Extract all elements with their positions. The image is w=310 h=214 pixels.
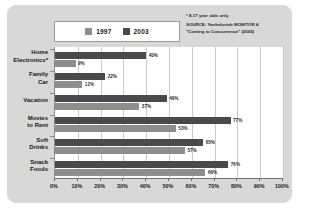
bar-group: 76%66%: [55, 156, 283, 178]
footnote-text: * 8-17 year olds only: [186, 13, 298, 20]
bar-value-label: 9%: [78, 61, 85, 66]
x-tick-label: 80%: [231, 183, 242, 189]
x-tick: [168, 178, 169, 181]
category-label: Moviesto Rent: [0, 115, 48, 130]
bar-row: 22%: [55, 73, 117, 80]
bar-value-label: 66%: [208, 170, 217, 175]
x-tick-label: 100%: [275, 183, 289, 189]
bar-row: 76%: [55, 161, 240, 168]
bar-row: 37%: [55, 103, 151, 110]
chart-figure: 1997 2003 * 8-17 year olds only SOURCE: …: [0, 0, 310, 214]
bar-row: 9%: [55, 60, 85, 67]
bar-1997: [55, 81, 82, 88]
bar-1997: [55, 169, 205, 176]
bar-1997: [55, 103, 139, 110]
plot-area: 40%9%22%12%49%37%77%53%65%57%76%66%: [54, 47, 283, 178]
gridline: [283, 47, 284, 178]
x-tick-label: 90%: [254, 183, 265, 189]
bar-value-label: 77%: [233, 118, 242, 123]
bar-2003: [55, 95, 167, 102]
bar-value-label: 12%: [85, 82, 94, 87]
bar-group: 40%9%: [55, 47, 283, 69]
bar-value-label: 65%: [206, 140, 215, 145]
legend-label-1997: 1997: [96, 28, 111, 35]
x-tick-label: 70%: [208, 183, 219, 189]
bar-value-label: 37%: [142, 104, 151, 109]
bar-row: 53%: [55, 125, 188, 132]
bar-2003: [55, 117, 231, 124]
chart-legend: 1997 2003: [54, 21, 180, 42]
bar-value-label: 49%: [169, 96, 178, 101]
bar-value-label: 40%: [149, 53, 158, 58]
category-label: Vacation: [0, 97, 48, 105]
x-tick: [214, 178, 215, 181]
legend-swatch-1997: [85, 28, 92, 35]
bar-2003: [55, 161, 228, 168]
bar-row: 65%: [55, 139, 215, 146]
category-label: HomeElectronics*: [0, 49, 48, 64]
x-tick-label: 20%: [94, 183, 105, 189]
legend-label-2003: 2003: [134, 28, 149, 35]
bar-row: 40%: [55, 52, 158, 59]
bar-1997: [55, 125, 176, 132]
bar-row: 77%: [55, 117, 242, 124]
legend-entry-1997: 1997: [85, 28, 111, 35]
category-label: SoftDrinks: [0, 137, 48, 152]
bar-2003: [55, 52, 146, 59]
source-text-line2: "Coming to Concurrence" (2005): [186, 29, 298, 36]
source-text-line1: SOURCE: Yankelovich MONITOR &: [186, 22, 298, 29]
bar-2003: [55, 139, 203, 146]
source-note: * 8-17 year olds only SOURCE: Yankelovic…: [186, 13, 298, 36]
x-tick-label: 0%: [50, 183, 58, 189]
category-tick: [50, 158, 54, 159]
bar-group: 22%12%: [55, 69, 283, 91]
x-tick: [191, 178, 192, 181]
x-tick-label: 10%: [71, 183, 82, 189]
x-tick: [282, 178, 283, 181]
bar-1997: [55, 147, 185, 154]
category-tick: [50, 71, 54, 72]
x-tick-label: 30%: [117, 183, 128, 189]
bar-row: 57%: [55, 147, 197, 154]
category-tick: [50, 49, 54, 50]
x-tick: [145, 178, 146, 181]
bar-row: 66%: [55, 169, 217, 176]
bar-group: 49%37%: [55, 91, 283, 113]
legend-swatch-2003: [123, 28, 130, 35]
bar-1997: [55, 60, 76, 67]
bar-value-label: 22%: [108, 74, 117, 79]
bar-row: 49%: [55, 95, 178, 102]
category-tick: [50, 136, 54, 137]
x-tick: [77, 178, 78, 181]
bar-value-label: 53%: [178, 126, 187, 131]
x-tick: [122, 178, 123, 181]
category-label: FamilyCar: [0, 71, 48, 86]
category-tick: [50, 93, 54, 94]
bar-group: 65%57%: [55, 134, 283, 156]
x-tick: [54, 178, 55, 181]
bar-row: 12%: [55, 81, 94, 88]
legend-entry-2003: 2003: [123, 28, 149, 35]
category-tick: [50, 115, 54, 116]
bar-2003: [55, 73, 105, 80]
x-tick-label: 60%: [185, 183, 196, 189]
x-tick: [236, 178, 237, 181]
category-label: SnackFoods: [0, 159, 48, 174]
x-tick: [100, 178, 101, 181]
bar-value-label: 76%: [231, 162, 240, 167]
x-tick-label: 40%: [140, 183, 151, 189]
bar-group: 77%53%: [55, 113, 283, 135]
bar-value-label: 57%: [187, 148, 196, 153]
x-tick-label: 50%: [163, 183, 174, 189]
x-tick: [259, 178, 260, 181]
